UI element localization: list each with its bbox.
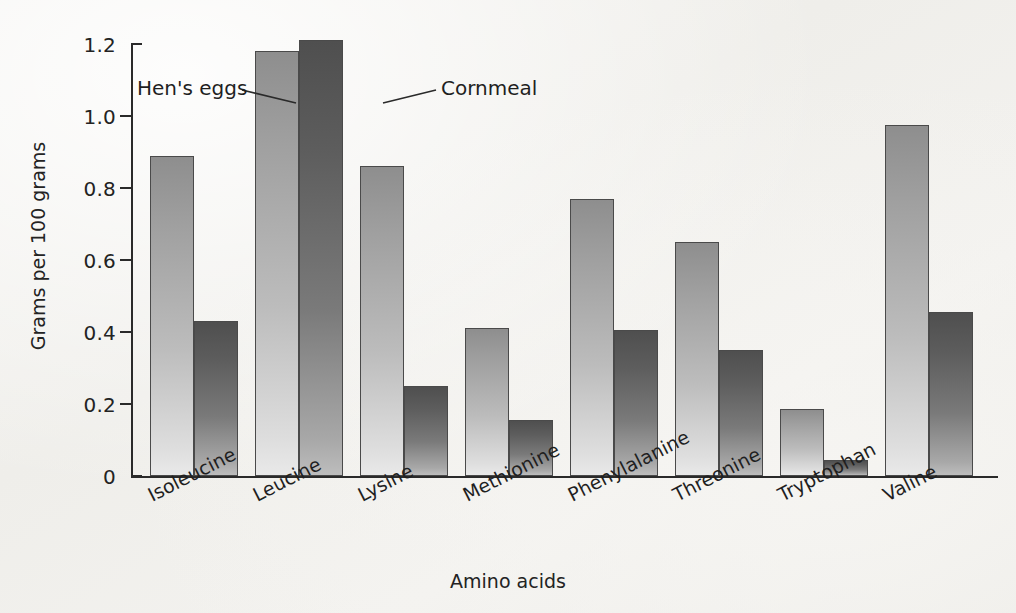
annotation-hens-eggs: Hen's eggs	[137, 76, 247, 100]
bar-methionine-hen-s-eggs	[465, 328, 509, 476]
bar-lysine-hen-s-eggs	[360, 166, 404, 476]
bar-leucine-cornmeal	[299, 40, 343, 476]
bar-valine-cornmeal	[929, 312, 973, 476]
plot-area: 1.21.00.80.60.40.20 Grams per 100 grams …	[0, 0, 1016, 613]
bar-valine-hen-s-eggs	[885, 125, 929, 476]
bar-phenylalanine-hen-s-eggs	[570, 199, 614, 476]
bar-isoleucine-hen-s-eggs	[150, 156, 194, 476]
bar-lysine-cornmeal	[404, 386, 448, 476]
chart-page: 1.21.00.80.60.40.20 Grams per 100 grams …	[0, 0, 1016, 613]
annotation-cornmeal: Cornmeal	[441, 76, 537, 100]
bar-leucine-hen-s-eggs	[255, 51, 299, 476]
